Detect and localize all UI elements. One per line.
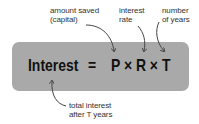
arrow-capital-icon (86, 25, 114, 51)
arrows-layer (0, 0, 199, 124)
arrow-total-icon (52, 81, 66, 106)
arrow-years-icon (157, 22, 164, 51)
arrow-rate-icon (138, 26, 145, 51)
